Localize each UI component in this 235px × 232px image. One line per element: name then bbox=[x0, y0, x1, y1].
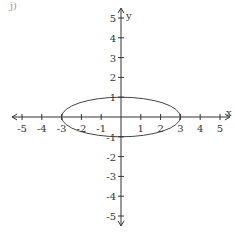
x-tick-label: -3 bbox=[57, 123, 67, 134]
y-tick-label: 4 bbox=[110, 33, 116, 44]
x-tick-label: 4 bbox=[197, 123, 203, 134]
x-tick-label: -1 bbox=[96, 123, 106, 134]
y-tick-label: 2 bbox=[110, 72, 116, 83]
axes bbox=[12, 8, 230, 226]
x-axis-label: x bbox=[226, 107, 232, 118]
problem-label: j) bbox=[9, 0, 17, 11]
y-tick-label: 5 bbox=[110, 13, 116, 24]
y-tick-label: -5 bbox=[106, 211, 116, 222]
x-tick-label: 1 bbox=[138, 123, 144, 134]
x-tick-label: -4 bbox=[37, 123, 47, 134]
x-tick-label: -5 bbox=[17, 123, 27, 134]
x-tick-label: 3 bbox=[177, 123, 183, 134]
y-tick-label: 3 bbox=[110, 53, 116, 64]
x-tick-label: 5 bbox=[217, 123, 223, 134]
y-tick-label: 1 bbox=[110, 92, 116, 103]
y-tick-label: -4 bbox=[106, 191, 116, 202]
y-tick-label: -3 bbox=[106, 171, 116, 182]
y-tick-label: -1 bbox=[106, 132, 116, 143]
y-tick-label: -2 bbox=[106, 152, 116, 163]
x-tick-label: 2 bbox=[157, 123, 163, 134]
y-axis-label: y bbox=[125, 10, 132, 21]
x-tick-label: -2 bbox=[77, 123, 87, 134]
coordinate-plane: j) -5-4-3-2-11234554321-1-2-3-4-5 x y bbox=[0, 0, 235, 232]
